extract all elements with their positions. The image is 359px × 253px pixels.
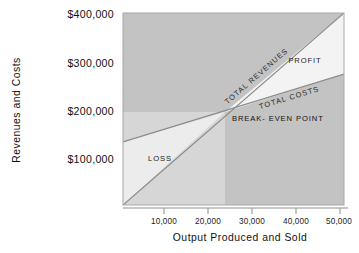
x-tick-label-50000: 50,000: [326, 217, 352, 226]
y-tick-label-200000: $200,000: [67, 105, 114, 117]
x-tick-label-10000: 10,000: [151, 217, 177, 226]
y-tick-label-300000: $300,000: [67, 57, 114, 69]
x-tick-label-40000: 40,000: [283, 217, 309, 226]
loss-label: LOSS: [148, 154, 172, 163]
x-tick-label-20000: 20,000: [195, 217, 221, 226]
break-even-chart: 10,000 20,000 30,000 40,000 50,000 $400,…: [0, 0, 359, 253]
plot-area: [123, 13, 344, 205]
chart-canvas: 10,000 20,000 30,000 40,000 50,000 $400,…: [0, 0, 359, 253]
y-tick-label-400000: $400,000: [67, 8, 114, 20]
x-tick-label-30000: 30,000: [239, 217, 265, 226]
x-axis-title: Output Produced and Sold: [173, 232, 307, 243]
y-tick-label-100000: $100,000: [67, 153, 114, 165]
y-axis-title: Revenues and Costs: [11, 57, 22, 162]
break-even-point-label: BREAK- EVEN POINT: [232, 114, 324, 123]
profit-label: PROFIT: [288, 56, 321, 65]
